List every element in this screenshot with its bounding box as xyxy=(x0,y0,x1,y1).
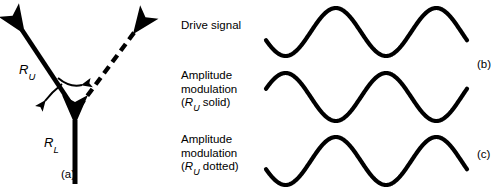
rotation-arc-left-icon xyxy=(45,84,62,101)
vector-ru-dashed xyxy=(79,30,136,107)
waveform-amplitude-modulation-solid xyxy=(266,73,467,121)
vector-label-rl-sub: L xyxy=(53,144,58,155)
caption-drive-signal: Drive signal xyxy=(181,19,241,33)
vector-label-ru-sub: U xyxy=(28,71,35,82)
part-label-c: (c) xyxy=(477,148,490,160)
vector-diagram-svg xyxy=(0,0,175,194)
caption-am-solid-sub: U xyxy=(193,103,200,113)
waveform-panel: Drive signal Amplitude modulation (RU so… xyxy=(175,0,504,194)
caption-am-dotted-r: R xyxy=(185,160,193,172)
caption-am-solid-line3: (RU solid) xyxy=(181,96,237,114)
caption-am-dotted-line3: (RU dotted) xyxy=(181,160,239,178)
caption-drive-signal-line1: Drive signal xyxy=(181,19,241,33)
caption-am-solid-r: R xyxy=(185,96,193,108)
caption-am-solid-line2: modulation xyxy=(181,83,237,97)
caption-amplitude-modulation-dotted: Amplitude modulation (RU dotted) xyxy=(181,133,239,178)
vector-label-ru: RU xyxy=(19,62,35,80)
caption-am-dotted-tail: dotted) xyxy=(200,160,239,172)
vector-diagram-panel: RU RL (a) xyxy=(0,0,175,194)
caption-amplitude-modulation-solid: Amplitude modulation (RU solid) xyxy=(181,69,237,114)
caption-am-dotted-sub: U xyxy=(193,167,200,177)
vector-label-ru-main: R xyxy=(19,62,28,77)
vector-label-rl-main: R xyxy=(44,135,53,150)
caption-am-solid-line1: Amplitude xyxy=(181,69,237,83)
figure-root: RU RL (a) Drive signal Amplitude modulat… xyxy=(0,0,504,194)
part-label-b: (b) xyxy=(477,58,491,70)
caption-am-solid-tail: solid) xyxy=(200,96,231,108)
waveform-amplitude-modulation-dotted xyxy=(266,137,467,185)
waveform-drive-signal xyxy=(266,8,467,56)
vector-label-rl: RL xyxy=(44,135,59,153)
caption-am-dotted-line1: Amplitude xyxy=(181,133,239,147)
caption-am-dotted-line2: modulation xyxy=(181,147,239,161)
part-label-a: (a) xyxy=(61,168,75,180)
